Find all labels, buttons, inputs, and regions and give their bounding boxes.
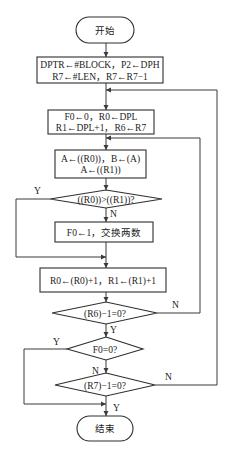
process-line: A←((R1)) [80, 165, 120, 176]
branch-label-no: N [165, 372, 172, 382]
branch-label-no: N [110, 209, 117, 219]
end-label: 结束 [95, 423, 115, 434]
arrow-icon [101, 255, 106, 260]
process-line: R7←#LEN，R7←R7−1 [52, 72, 148, 82]
arrow-icon [104, 217, 109, 222]
arrow-icon [104, 52, 109, 57]
arrow-icon [104, 105, 109, 110]
arrow-icon [104, 185, 109, 190]
decision-inner-count: (R6)−1=0? [52, 302, 157, 324]
process-init-pass: F0←0，R0←DPL R1←DPL+1，R6←R7 [48, 110, 154, 134]
process-init-pointer: DPTR←#BLOCK，P2←DPH R7←#LEN，R7←R7−1 [37, 57, 163, 83]
start-terminal: 开始 [76, 17, 134, 43]
process-line: R1←DPL+1，R6←R7 [56, 123, 147, 133]
arrow-icon [104, 145, 109, 150]
decision-label: ((R0))>((R1))? [77, 195, 134, 206]
decision-compare: ((R0))>((R1))? [50, 190, 162, 208]
branch-label-yes: Y [110, 325, 117, 335]
process-line: R0←(R0)+1，R1←(R1)+1 [50, 276, 156, 287]
process-line: A←((R0))，B←(A) [61, 154, 140, 165]
arrow-icon [104, 263, 109, 268]
arrow-icon [104, 297, 109, 302]
flowchart-canvas: 开始 DPTR←#BLOCK，P2←DPH R7←#LEN，R7←R7−1 F0… [0, 0, 229, 455]
process-line: F0←1，交换两数 [67, 227, 141, 238]
decision-label: (R6)−1=0? [84, 309, 126, 320]
process-line: DPTR←#BLOCK，P2←DPH [40, 60, 159, 70]
branch-label-yes: Y [34, 186, 41, 196]
branch-label-yes: Y [53, 337, 60, 347]
arrow-icon [104, 332, 109, 337]
start-label: 开始 [95, 25, 115, 36]
decision-label: F0=0? [93, 345, 117, 355]
decision-outer-count: (R7)−1=0? [55, 373, 155, 396]
process-increment-pointers: R0←(R0)+1，R1←(R1)+1 [40, 268, 166, 292]
branch-label-yes: Y [113, 403, 120, 413]
end-terminal: 结束 [77, 416, 133, 441]
process-line: F0←0，R0←DPL [65, 112, 138, 122]
arrow-icon [104, 411, 109, 416]
process-load-values: A←((R0))，B←(A) A←((R1)) [55, 150, 146, 178]
decision-label: (R7)−1=0? [84, 381, 126, 392]
process-swap: F0←1，交换两数 [55, 222, 153, 242]
branch-label-no: N [172, 300, 179, 310]
arrow-icon [101, 402, 106, 407]
arrow-icon [104, 368, 109, 373]
arrow-icon [106, 136, 111, 141]
decision-flag-check: F0=0? [67, 337, 143, 360]
arrow-icon [106, 88, 111, 93]
